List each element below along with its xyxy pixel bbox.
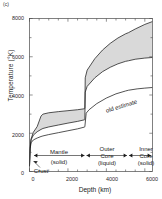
mantle-label: Mantle — [50, 149, 69, 155]
layer-annotations: Mantle (solid) Outer Core (liquid) Inner… — [34, 98, 155, 173]
crust-arrow — [34, 161, 41, 168]
inner-core-label-1: Inner — [139, 146, 153, 152]
uncertainty-band — [30, 22, 152, 166]
inner-core-state-label: (solid) — [138, 160, 154, 166]
figure-panel: (c) Temperature (°K) Depth (km) 8000 600… — [0, 0, 162, 199]
plot-canvas: Mantle (solid) Outer Core (liquid) Inner… — [0, 0, 162, 199]
mantle-state-label: (solid) — [51, 159, 67, 165]
inner-core-label-2: Core — [139, 153, 153, 159]
old-estimate-label: old estimate — [105, 98, 138, 113]
outer-core-label-2: Core — [100, 153, 114, 159]
crust-label: Crust — [34, 168, 49, 174]
outer-core-state-label: (liquid) — [98, 160, 116, 166]
outer-core-label-1: Outer — [99, 146, 114, 152]
